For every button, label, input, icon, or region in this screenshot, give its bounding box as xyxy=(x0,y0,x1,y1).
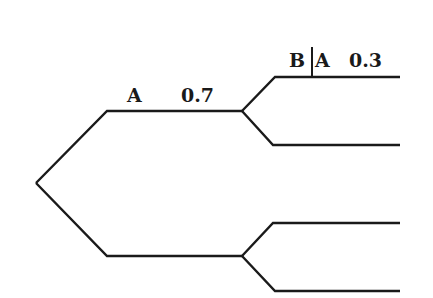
branch-lower-lower xyxy=(242,256,400,291)
branch-label-event-a: A xyxy=(127,86,142,105)
branch-label-probability-b-given-a: 0.3 xyxy=(349,51,382,70)
branch-upper-lower xyxy=(242,111,400,145)
branch-upper-upper xyxy=(242,77,400,111)
probability-tree-diagram: A 0.7 B A 0.3 xyxy=(0,0,433,298)
conditional-bar xyxy=(311,47,313,77)
branch-label-probability-a: 0.7 xyxy=(181,86,214,105)
tree-edges xyxy=(0,0,433,298)
branch-root-upper xyxy=(36,111,242,183)
branch-label-given-a: A xyxy=(315,51,330,70)
branch-root-lower xyxy=(36,183,242,256)
branch-lower-upper xyxy=(242,223,400,256)
branch-label-event-b: B xyxy=(289,51,305,70)
